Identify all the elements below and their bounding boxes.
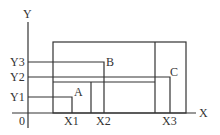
x-axis-label: X	[199, 106, 208, 120]
point-b-label: B	[106, 55, 114, 69]
y-axis-label: Y	[23, 7, 32, 21]
point-b-guides	[28, 62, 104, 113]
point-a-guides	[28, 97, 72, 113]
y-tick-y1: Y1	[10, 90, 25, 104]
point-c-label: C	[170, 65, 178, 79]
y-tick-y3: Y3	[10, 55, 25, 69]
origin-label: 0	[19, 114, 25, 128]
coordinate-diagram: Y X 0 Y1 Y2 Y3 X1 X2 X3 A B C	[0, 0, 220, 135]
x-tick-x3: X3	[162, 114, 177, 128]
x-tick-x2: X2	[96, 114, 111, 128]
point-a-label: A	[74, 85, 83, 99]
y-tick-y2: Y2	[10, 70, 25, 84]
x-tick-x1: X1	[64, 114, 79, 128]
